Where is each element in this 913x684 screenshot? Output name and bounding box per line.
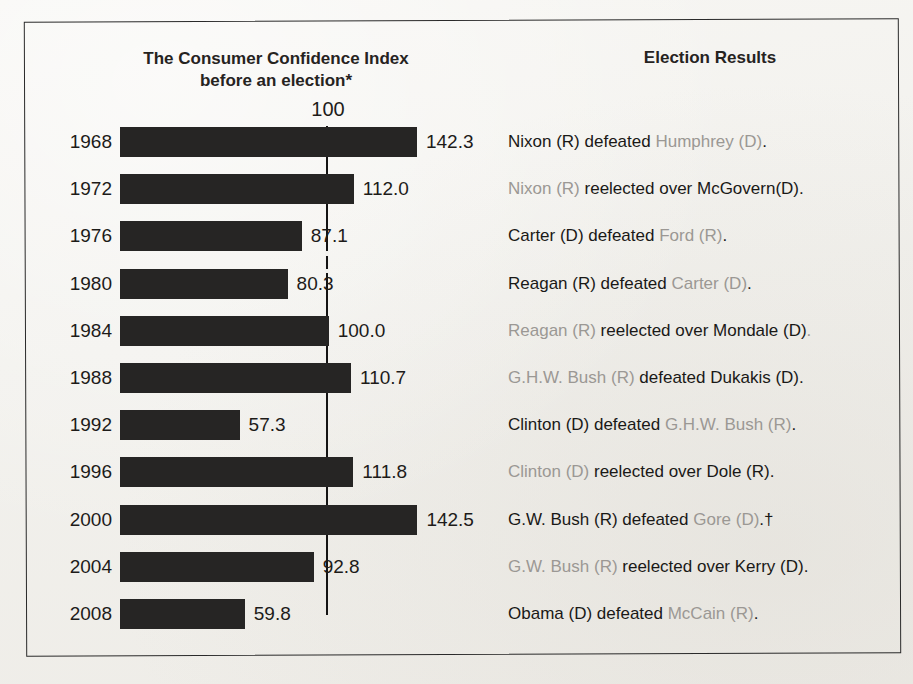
- chart-column-header-line1: The Consumer Confidence Index: [143, 49, 408, 68]
- election-result: Clinton (D) reelected over Dole (R).: [508, 457, 774, 487]
- result-emphasis-segment: .: [747, 274, 752, 293]
- row-bar: [120, 269, 288, 299]
- result-emphasis-segment: G.W. Bush (R) defeated: [508, 510, 693, 529]
- election-result: Nixon (R) reelected over McGovern(D).: [508, 174, 804, 204]
- election-result: G.W. Bush (R) defeated Gore (D).†: [508, 505, 774, 535]
- row-value-label: 111.8: [362, 457, 407, 487]
- result-emphasis-segment: .: [791, 415, 796, 434]
- row-bar: [120, 599, 245, 629]
- row-bar: [120, 221, 302, 251]
- election-result: Clinton (D) defeated G.H.W. Bush (R).: [508, 410, 796, 440]
- result-dim-segment: Nixon (R): [508, 179, 585, 198]
- result-emphasis-segment: reelected over Dole (R).: [594, 462, 774, 481]
- result-emphasis-segment: Nixon (R) defeated: [508, 132, 655, 151]
- result-emphasis-segment: reelected over Kerry (D).: [622, 557, 808, 576]
- row-year-label: 1988: [46, 363, 112, 393]
- row-year-label: 2000: [46, 505, 112, 535]
- row-year-label: 1996: [46, 457, 112, 487]
- row-value-label: 80.3: [297, 269, 334, 299]
- row-year-label: 1968: [46, 127, 112, 157]
- row-year-label: 1976: [46, 221, 112, 251]
- result-emphasis-segment: .: [754, 604, 759, 623]
- row-value-label: 100.0: [338, 316, 386, 346]
- row-value-label: 87.1: [311, 221, 348, 251]
- row-year-label: 1992: [46, 410, 112, 440]
- row-bar: [120, 505, 417, 535]
- row-value-label: 57.3: [249, 410, 286, 440]
- row-bar: [120, 457, 353, 487]
- result-dim-segment: McCain (R): [668, 604, 754, 623]
- row-bar: [120, 363, 351, 393]
- election-result: G.W. Bush (R) reelected over Kerry (D).: [508, 552, 808, 582]
- row-value-label: 142.3: [426, 127, 474, 157]
- row-bar: [120, 127, 417, 157]
- election-result: Reagan (R) reelected over Mondale (D).: [508, 316, 811, 346]
- reference-line-dash: [326, 256, 328, 269]
- result-dim-segment: Humphrey (D): [655, 132, 762, 151]
- result-emphasis-segment: Reagan (R) defeated: [508, 274, 672, 293]
- results-column-header: Election Results: [560, 48, 860, 68]
- result-dim-segment: Reagan (R): [508, 321, 601, 340]
- reference-line-label: 100: [297, 98, 359, 121]
- row-bar: [120, 316, 329, 346]
- election-result: Reagan (R) defeated Carter (D).: [508, 269, 752, 299]
- row-value-label: 112.0: [363, 174, 409, 204]
- result-dim-segment: G.H.W. Bush (R): [665, 415, 792, 434]
- result-emphasis-segment: .†: [759, 510, 773, 529]
- result-emphasis-segment: defeated Dukakis (D).: [639, 368, 803, 387]
- row-value-label: 110.7: [360, 363, 406, 393]
- election-result: Obama (D) defeated McCain (R).: [508, 599, 758, 629]
- result-dim-segment: Gore (D): [693, 510, 759, 529]
- result-emphasis-segment: reelected over Mondale (D): [601, 321, 807, 340]
- row-year-label: 1980: [46, 269, 112, 299]
- election-result: Nixon (R) defeated Humphrey (D).: [508, 127, 767, 157]
- row-year-label: 2004: [46, 552, 112, 582]
- row-bar: [120, 410, 240, 440]
- result-emphasis-segment: Carter (D) defeated: [508, 226, 659, 245]
- result-emphasis-segment: reelected over McGovern(D).: [585, 179, 804, 198]
- figure-content: The Consumer Confidence Index before an …: [0, 0, 913, 684]
- result-dim-segment: Ford (R): [659, 226, 722, 245]
- row-year-label: 1984: [46, 316, 112, 346]
- chart-column-header: The Consumer Confidence Index before an …: [118, 48, 434, 92]
- election-result: G.H.W. Bush (R) defeated Dukakis (D).: [508, 363, 804, 393]
- election-result: Carter (D) defeated Ford (R).: [508, 221, 727, 251]
- row-value-label: 59.8: [254, 599, 291, 629]
- row-year-label: 1972: [46, 174, 112, 204]
- row-value-label: 142.5: [426, 505, 474, 535]
- row-value-label: 92.8: [323, 552, 360, 582]
- row-year-label: 2008: [46, 599, 112, 629]
- chart-column-header-line2: before an election*: [118, 70, 434, 92]
- result-emphasis-segment: Clinton (D) defeated: [508, 415, 665, 434]
- result-dim-segment: .: [807, 321, 812, 340]
- row-bar: [120, 174, 354, 204]
- result-dim-segment: Clinton (D): [508, 462, 594, 481]
- result-emphasis-segment: .: [762, 132, 767, 151]
- result-dim-segment: G.W. Bush (R): [508, 557, 622, 576]
- result-dim-segment: G.H.W. Bush (R): [508, 368, 639, 387]
- result-dim-segment: Carter (D): [672, 274, 748, 293]
- result-emphasis-segment: .: [722, 226, 727, 245]
- result-emphasis-segment: Obama (D) defeated: [508, 604, 668, 623]
- row-bar: [120, 552, 314, 582]
